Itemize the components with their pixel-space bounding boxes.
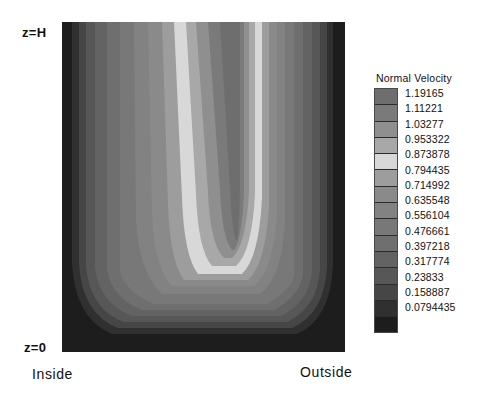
axis-label-bottom: z=0: [24, 340, 46, 355]
colorbar-swatch: [375, 301, 397, 317]
contour-plot: [62, 22, 345, 352]
colorbar-tick-label: 0.0794435: [405, 301, 456, 313]
colorbar-tick-label: 0.158887: [405, 286, 450, 298]
colorbar-tick-label: 0.714992: [405, 179, 450, 191]
colorbar-swatch: [375, 170, 397, 186]
colorbar-swatch: [375, 252, 397, 268]
colorbar-legend: Normal Velocity 1.191651.112211.032770.9…: [374, 72, 485, 333]
colorbar-swatch: [375, 236, 397, 252]
colorbar-tick-label: 0.556104: [405, 209, 450, 221]
colorbar-tick-label: 0.317774: [405, 255, 450, 267]
colorbar-tick-label: 0.23833: [405, 271, 444, 283]
legend-title: Normal Velocity: [376, 72, 485, 84]
colorbar-tick-label: 0.953322: [405, 133, 450, 145]
legend-body: 1.191651.112211.032770.9533220.8738780.7…: [374, 88, 485, 333]
colorbar-swatch: [375, 268, 397, 284]
colorbar-swatch: [375, 203, 397, 219]
axis-label-inside: Inside: [32, 366, 73, 382]
colorbar-swatch: [375, 285, 397, 301]
colorbar-swatches: [374, 88, 398, 333]
colorbar-tick-labels: 1.191651.112211.032770.9533220.8738780.7…: [405, 88, 485, 319]
colorbar-swatch: [375, 154, 397, 170]
colorbar-tick-label: 0.476661: [405, 225, 450, 237]
colorbar-tick-label: 0.397218: [405, 240, 450, 252]
colorbar-tick-label: 0.794435: [405, 164, 450, 176]
contour-plot-canvas: [62, 22, 345, 352]
colorbar-swatch: [375, 317, 397, 332]
colorbar-tick-label: 1.11221: [405, 102, 443, 114]
colorbar-swatch: [375, 105, 397, 121]
axis-label-top: z=H: [22, 25, 46, 40]
axis-label-outside: Outside: [300, 364, 352, 380]
colorbar-tick-label: 0.873878: [405, 148, 450, 160]
colorbar-swatch: [375, 187, 397, 203]
colorbar-swatch: [375, 219, 397, 235]
colorbar-swatch: [375, 122, 397, 138]
colorbar-tick-label: 1.03277: [405, 118, 444, 130]
colorbar-swatch: [375, 138, 397, 154]
colorbar-swatch: [375, 89, 397, 105]
contour-figure: z=H z=0 Inside Outside Normal Velocity 1…: [0, 0, 485, 403]
colorbar-tick-label: 0.635548: [405, 194, 450, 206]
colorbar-tick-label: 1.19165: [405, 87, 444, 99]
